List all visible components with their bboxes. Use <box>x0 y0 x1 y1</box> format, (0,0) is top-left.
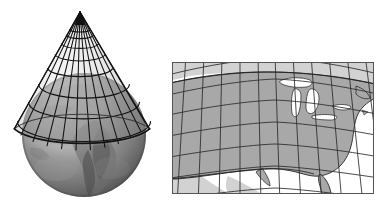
globe-with-cone-panel <box>0 0 180 218</box>
projected-us-map-panel <box>170 58 380 198</box>
conic-projection-figure <box>0 0 384 218</box>
us-map-svg <box>170 58 380 198</box>
globe-cone-svg <box>0 0 180 218</box>
